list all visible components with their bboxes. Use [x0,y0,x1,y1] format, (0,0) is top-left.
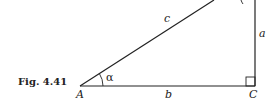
side-label-b: b [165,88,172,101]
figure-caption: Fig. 4.41 [18,76,67,87]
vertex-label-a: A [76,88,84,101]
side-label-c: c [164,12,170,25]
vertex-label-c: C [249,88,257,101]
right-angle-marker [246,77,255,86]
angle-beta-arc-partial [241,0,243,4]
angle-label-alpha: α [106,71,113,84]
triangle-diagram [0,0,279,104]
side-c [80,0,214,86]
angle-alpha-arc [99,74,103,86]
side-label-a: a [259,27,266,40]
